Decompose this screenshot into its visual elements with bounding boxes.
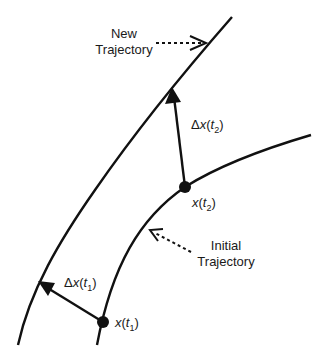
delta-symbol: Δ <box>64 275 73 290</box>
x-t2-label: x(t2) <box>192 195 216 216</box>
initial-trajectory-pointer <box>155 233 191 252</box>
delta-t1-arrowhead <box>38 281 55 296</box>
delta-t2-arrow <box>174 97 185 187</box>
initial-trajectory-label: Initial Trajectory <box>190 238 262 270</box>
trajectory-diagram <box>0 0 324 358</box>
initial-trajectory-label-line1: Initial <box>190 238 262 254</box>
point-x-t2 <box>179 181 191 193</box>
delta-x-t2-label: Δx(t2) <box>191 117 224 138</box>
new-trajectory-curve <box>18 17 232 345</box>
delta-x-t1-label: Δx(t1) <box>64 275 97 296</box>
new-trajectory-label-line2: Trajectory <box>88 42 160 58</box>
paren-close: ) <box>92 275 96 290</box>
initial-trajectory-label-line2: Trajectory <box>190 254 262 270</box>
paren-close: ) <box>211 195 215 210</box>
paren-close: ) <box>219 117 223 132</box>
initial-trajectory-pointer-head <box>150 229 163 241</box>
x-t1-label: x(t1) <box>115 315 139 336</box>
point-x-t1 <box>97 316 109 328</box>
new-trajectory-label: New Trajectory <box>88 26 160 58</box>
new-trajectory-label-line1: New <box>88 26 160 42</box>
delta-symbol: Δ <box>191 117 200 132</box>
paren-close: ) <box>134 315 138 330</box>
